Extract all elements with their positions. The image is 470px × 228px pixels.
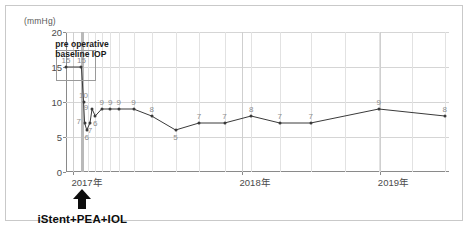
data-point bbox=[223, 122, 226, 125]
procedure-label: iStent+PEA+IOL bbox=[37, 213, 127, 225]
iop-line-series bbox=[66, 32, 449, 172]
data-point bbox=[94, 115, 97, 118]
data-point-label: 7 bbox=[222, 112, 226, 121]
data-point bbox=[150, 115, 153, 118]
y-axis-tick-label: 10 bbox=[51, 97, 62, 108]
data-point bbox=[443, 115, 446, 118]
y-axis-tick-label: 5 bbox=[57, 132, 62, 143]
y-axis-unit-label: (mmHg) bbox=[24, 16, 56, 26]
data-point bbox=[278, 122, 281, 125]
data-point bbox=[88, 122, 91, 125]
data-point-label: 5 bbox=[173, 133, 177, 142]
data-point bbox=[83, 122, 86, 125]
data-point-label: 6 bbox=[93, 119, 97, 128]
x-axis-tick-label: 2018年 bbox=[240, 175, 271, 189]
preop-baseline-annotation: pre operative baseline IOP bbox=[55, 39, 108, 59]
data-point-label: 9 bbox=[131, 98, 135, 107]
data-point-label: 7 bbox=[308, 112, 312, 121]
data-point-label: 7 bbox=[76, 117, 80, 126]
data-point-label: 7 bbox=[278, 112, 282, 121]
plot-area: 051015202017年2018年2019年15151076796999985… bbox=[66, 32, 449, 172]
data-point bbox=[250, 115, 253, 118]
data-point bbox=[309, 122, 312, 125]
data-point-label: 9 bbox=[84, 103, 88, 112]
data-point-label: 9 bbox=[377, 98, 381, 107]
data-point bbox=[117, 108, 120, 111]
data-point-label: 8 bbox=[249, 105, 253, 114]
data-point-label: 8 bbox=[443, 105, 447, 114]
data-point bbox=[132, 108, 135, 111]
chart-frame: (mmHg) 051015202017年2018年2019年1515107679… bbox=[5, 5, 463, 221]
data-point-label: 9 bbox=[99, 98, 103, 107]
data-point bbox=[197, 122, 200, 125]
y-axis-tick-mark bbox=[63, 172, 66, 173]
x-axis-tick-label: 2017年 bbox=[71, 175, 102, 189]
data-point bbox=[377, 108, 380, 111]
data-point-label: 9 bbox=[116, 98, 120, 107]
y-axis-tick-label: 20 bbox=[51, 27, 62, 38]
data-point bbox=[100, 108, 103, 111]
data-point-label: 7 bbox=[197, 112, 201, 121]
preop-annotation-line1: pre operative bbox=[55, 39, 108, 49]
data-point bbox=[109, 108, 112, 111]
x-axis-tick-label: 2019年 bbox=[378, 175, 409, 189]
data-point-label: 9 bbox=[108, 98, 112, 107]
data-point-label: 10 bbox=[79, 91, 88, 100]
data-point bbox=[91, 108, 94, 111]
data-point-label: 8 bbox=[149, 105, 153, 114]
y-axis-tick-label: 0 bbox=[57, 167, 62, 178]
data-point-label: 7 bbox=[88, 126, 92, 135]
preop-annotation-line2: baseline IOP bbox=[55, 49, 108, 59]
data-point bbox=[174, 129, 177, 132]
